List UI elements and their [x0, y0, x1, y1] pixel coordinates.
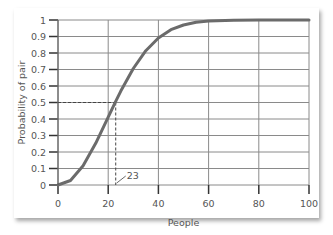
x-tick-label: 60: [203, 198, 215, 209]
y-tick-label: 0.7: [31, 64, 46, 75]
y-axis-label: Probability of pair: [16, 61, 27, 145]
x-tick-label: 0: [55, 198, 61, 209]
line-chart: 00.10.20.30.40.50.60.70.80.9102040608010…: [0, 0, 333, 235]
y-tick-label: 0.1: [31, 163, 46, 174]
y-tick-label: 0: [40, 180, 46, 191]
y-tick-label: 0.4: [31, 114, 46, 125]
annotation-leader: [117, 176, 126, 183]
y-tick-label: 0.6: [31, 81, 46, 92]
y-tick-label: 0.3: [31, 130, 46, 141]
y-tick-label: 0.5: [31, 97, 46, 108]
y-tick-label: 1: [40, 15, 46, 26]
y-tick-label: 0.9: [31, 31, 46, 42]
y-tick-label: 0.8: [31, 48, 46, 59]
x-tick-label: 20: [102, 198, 114, 209]
y-tick-label: 0.2: [31, 147, 46, 158]
x-tick-label: 100: [300, 198, 318, 209]
annotation-label: 23: [127, 170, 139, 181]
x-axis-label: People: [168, 217, 200, 228]
x-tick-label: 40: [152, 198, 164, 209]
x-tick-label: 80: [253, 198, 265, 209]
